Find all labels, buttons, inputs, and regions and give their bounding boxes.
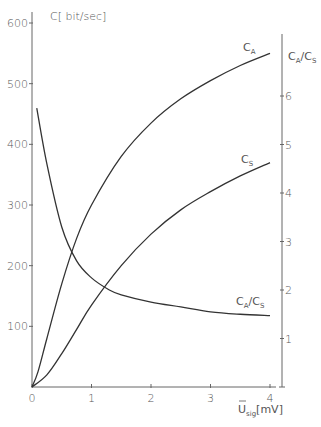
curve-ca (32, 53, 270, 387)
capacity-chart: 100200300400500600 123456 01234 C[ bit/s… (0, 0, 321, 427)
curve-label-cs: CS (241, 153, 254, 168)
left-tick-label: 100 (7, 320, 28, 333)
left-ticks: 100200300400500600 (7, 17, 33, 333)
x-tick-label: 1 (88, 392, 95, 405)
right-tick-label: 4 (285, 187, 292, 200)
curve-label-ca: CA (243, 41, 256, 56)
x-tick-label: 3 (207, 392, 214, 405)
curve-ratio (37, 108, 270, 316)
y-axis-title: C[ bit/sec] (50, 10, 106, 23)
right-tick-label: 3 (285, 236, 292, 249)
left-tick-label: 400 (7, 138, 28, 151)
curve-label-ratio: CA/CS (236, 295, 265, 310)
x-axis-title: Usig[mV] (238, 403, 283, 418)
left-tick-label: 200 (7, 260, 28, 273)
right-tick-label: 6 (285, 90, 292, 103)
x-tick-label: 0 (29, 392, 36, 405)
x-tick-label: 2 (148, 392, 155, 405)
curves (32, 53, 270, 387)
left-tick-label: 500 (7, 78, 28, 91)
left-tick-label: 300 (7, 199, 28, 212)
right-tick-label: 2 (285, 284, 292, 297)
curve-cs (32, 163, 270, 387)
axes (32, 12, 285, 387)
right-tick-label: 1 (285, 333, 292, 346)
left-tick-label: 600 (7, 17, 28, 30)
right-tick-label: 5 (285, 139, 292, 152)
y2-axis-title: CA/CS (288, 50, 317, 65)
